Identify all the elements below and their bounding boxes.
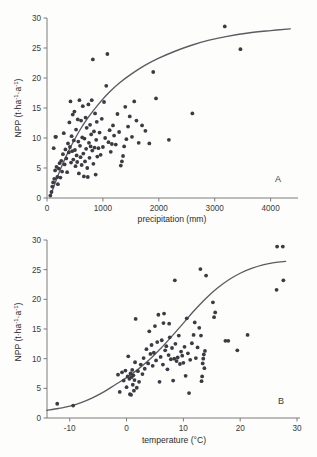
data-point	[52, 146, 56, 150]
data-point	[53, 169, 57, 173]
data-point	[130, 135, 134, 139]
data-point	[162, 312, 166, 316]
panel-a-x-ticks: 01000200030004000	[45, 198, 280, 213]
data-point	[81, 104, 85, 108]
data-point	[50, 190, 54, 194]
data-point	[202, 353, 206, 357]
data-point	[91, 58, 95, 62]
panel-a-data-points	[48, 25, 242, 198]
data-point	[124, 137, 128, 141]
data-point	[103, 136, 107, 140]
data-point	[204, 274, 208, 278]
data-point	[110, 142, 114, 146]
data-point	[275, 245, 279, 249]
data-point	[158, 380, 162, 384]
data-point	[73, 110, 77, 114]
panel-b-fit-curve	[47, 261, 286, 410]
data-point	[81, 152, 85, 156]
data-point	[78, 98, 82, 102]
data-point	[120, 160, 124, 164]
data-point	[118, 390, 122, 394]
data-point	[137, 380, 141, 384]
x-tick-label: 2000	[150, 204, 169, 213]
data-point	[86, 103, 90, 107]
data-point	[126, 125, 130, 129]
data-point	[86, 175, 90, 179]
data-point	[109, 150, 113, 154]
data-point	[72, 139, 76, 143]
data-point	[147, 142, 151, 146]
data-point	[135, 386, 139, 390]
data-point	[162, 321, 166, 325]
data-point	[144, 129, 148, 133]
data-point	[190, 341, 194, 345]
data-point	[151, 364, 155, 368]
data-point	[281, 245, 285, 249]
data-point	[74, 164, 78, 168]
data-point	[164, 344, 168, 348]
data-point	[75, 160, 79, 164]
data-point	[68, 145, 72, 149]
data-point	[168, 335, 172, 339]
x-tick-label: 0	[124, 424, 129, 433]
data-point	[156, 313, 160, 317]
data-point	[133, 378, 137, 382]
data-point	[223, 25, 227, 29]
y-tick-label: 10	[32, 134, 42, 143]
panel-a: 051015202530 01000200030004000 precipita…	[0, 0, 317, 228]
data-point	[167, 322, 171, 326]
y-tick-label: 30	[32, 14, 42, 23]
data-point	[199, 267, 203, 271]
y-tick-label: 20	[32, 74, 42, 83]
data-point	[201, 362, 205, 366]
data-point	[175, 359, 179, 363]
data-point	[194, 356, 198, 360]
data-point	[59, 176, 63, 180]
panel-b-label: B	[278, 396, 284, 406]
data-point	[160, 338, 164, 342]
x-tick-label: 30	[292, 424, 302, 433]
data-point	[69, 100, 73, 104]
data-point	[163, 348, 167, 352]
data-point	[89, 145, 93, 149]
data-point	[178, 362, 182, 366]
data-point	[84, 147, 88, 151]
data-point	[124, 369, 128, 373]
data-point	[51, 181, 55, 185]
data-point	[112, 134, 116, 138]
data-point	[146, 362, 150, 366]
data-point	[135, 119, 139, 123]
data-point	[69, 161, 73, 165]
data-point	[123, 105, 127, 109]
data-point	[64, 148, 68, 152]
data-point	[149, 352, 153, 356]
y-tick-label: 5	[36, 384, 41, 393]
data-point	[92, 162, 96, 166]
data-point	[170, 346, 174, 350]
data-point	[88, 156, 92, 160]
data-point	[88, 123, 92, 127]
data-point	[104, 84, 108, 88]
data-point	[154, 359, 158, 363]
data-point	[94, 173, 98, 177]
data-point	[62, 131, 66, 135]
y-tick-label: 10	[32, 355, 42, 364]
data-point	[136, 369, 140, 373]
data-point	[117, 130, 121, 134]
data-point	[60, 170, 64, 174]
x-tick-label: 20	[236, 424, 246, 433]
data-point	[83, 137, 87, 141]
data-point	[181, 361, 185, 365]
data-point	[107, 140, 111, 144]
data-point	[145, 347, 149, 351]
data-point	[95, 120, 99, 124]
data-point	[133, 360, 137, 364]
x-tick-label: 10	[179, 424, 189, 433]
data-point	[147, 329, 151, 333]
data-point	[56, 182, 60, 186]
data-point	[186, 351, 190, 355]
data-point	[102, 100, 106, 104]
data-point	[121, 154, 125, 158]
data-point	[66, 142, 70, 146]
data-point	[153, 324, 157, 328]
